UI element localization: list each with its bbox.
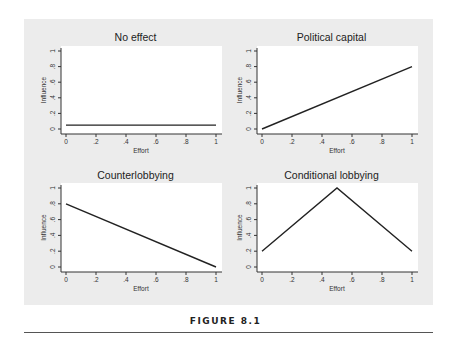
- y-tick-label: .2: [49, 110, 56, 116]
- x-axis-label: Effort: [133, 147, 149, 154]
- x-tick-label: 0: [260, 276, 264, 283]
- figure-caption: FIGURE 8.1: [0, 316, 451, 326]
- panel-title: Conditional lobbying: [284, 169, 379, 181]
- y-tick-label: .6: [245, 217, 252, 223]
- y-tick-label: .2: [49, 248, 56, 254]
- y-tick-label: 0: [49, 265, 56, 269]
- panel-title: Counterlobbying: [97, 169, 174, 181]
- y-tick-label: 1: [49, 49, 56, 53]
- y-tick-label: .2: [245, 248, 252, 254]
- x-tick-label: .6: [349, 138, 355, 145]
- y-axis-label: Influence: [236, 214, 243, 241]
- x-tick-label: .4: [319, 276, 325, 283]
- x-tick-label: .2: [93, 138, 99, 145]
- y-tick-label: .4: [49, 95, 56, 101]
- y-axis-label: Influence: [40, 76, 47, 103]
- x-tick-label: .6: [153, 138, 159, 145]
- y-tick-label: 1: [245, 186, 252, 190]
- panel-title: Political capital: [297, 31, 366, 43]
- y-tick-label: .8: [49, 64, 56, 70]
- x-tick-label: .4: [123, 138, 129, 145]
- x-tick-label: .6: [153, 276, 159, 283]
- y-tick-label: .4: [245, 95, 252, 101]
- y-tick-label: 1: [49, 186, 56, 190]
- x-tick-label: .8: [379, 138, 385, 145]
- x-tick-label: .4: [123, 276, 129, 283]
- x-tick-label: .8: [183, 276, 189, 283]
- x-tick-label: .2: [93, 276, 99, 283]
- caption-rule: [24, 332, 433, 333]
- y-tick-label: 0: [245, 127, 252, 131]
- x-tick-label: .4: [319, 138, 325, 145]
- x-tick-label: 0: [260, 138, 264, 145]
- x-tick-label: .8: [183, 138, 189, 145]
- y-tick-label: 1: [245, 49, 252, 53]
- y-tick-label: 0: [245, 265, 252, 269]
- x-axis-label: Effort: [329, 147, 345, 154]
- y-tick-label: .2: [245, 110, 252, 116]
- plot-area: [257, 183, 418, 272]
- x-tick-label: 1: [214, 138, 218, 145]
- y-tick-label: 0: [49, 127, 56, 131]
- plot-area: [61, 46, 222, 134]
- y-tick-label: .8: [245, 64, 252, 70]
- y-axis-label: Influence: [40, 214, 47, 241]
- x-tick-label: 1: [410, 138, 414, 145]
- x-tick-label: .8: [379, 276, 385, 283]
- x-tick-label: 0: [64, 276, 68, 283]
- y-tick-label: .4: [245, 232, 252, 238]
- x-tick-label: 0: [64, 138, 68, 145]
- x-axis-label: Effort: [329, 285, 345, 292]
- small-multiples-chart: No effect0.2.4.6.81Influence0.2.4.6.81Ef…: [0, 0, 451, 343]
- x-tick-label: .2: [289, 138, 295, 145]
- x-tick-label: .2: [289, 276, 295, 283]
- y-tick-label: .8: [245, 201, 252, 207]
- x-axis-label: Effort: [133, 285, 149, 292]
- y-tick-label: .6: [49, 79, 56, 85]
- x-tick-label: .6: [349, 276, 355, 283]
- panel-title: No effect: [115, 31, 157, 43]
- y-tick-label: .8: [49, 201, 56, 207]
- y-tick-label: .4: [49, 232, 56, 238]
- y-axis-label: Influence: [236, 76, 243, 103]
- y-tick-label: .6: [49, 217, 56, 223]
- y-tick-label: .6: [245, 79, 252, 85]
- x-tick-label: 1: [410, 276, 414, 283]
- x-tick-label: 1: [214, 276, 218, 283]
